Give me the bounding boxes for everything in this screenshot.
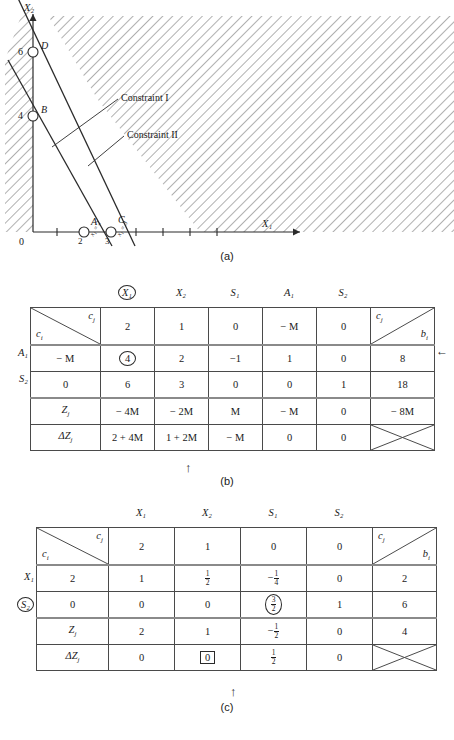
dzj-s1-c: 12 bbox=[241, 645, 307, 671]
pivot-col-arrow-c: ↑ bbox=[230, 685, 237, 698]
zj-x1-b: − 4M bbox=[101, 398, 155, 425]
bhdr-cj-sub-b: j bbox=[381, 316, 383, 324]
dzj-a1-b: 0 bbox=[263, 425, 317, 451]
y-axis-label: X₂ bbox=[24, 2, 34, 13]
cell-r2-s1-c: 32 bbox=[241, 592, 307, 619]
zj-bi-c: 4 bbox=[373, 618, 437, 645]
cell-r2-s2-b: 1 bbox=[317, 372, 371, 399]
cj-s1-b: 0 bbox=[209, 308, 263, 346]
table-row: 0 0 0 32 1 6 bbox=[37, 592, 437, 619]
zj-label-c: Zj bbox=[37, 618, 109, 645]
dzj-label-b: ΔZj bbox=[31, 425, 101, 451]
cell-r1-x1-b: 4 bbox=[101, 345, 155, 372]
vertex-label-B: B bbox=[41, 104, 47, 115]
dzj-x1-b: 2 + 4M bbox=[101, 425, 155, 451]
row-basis-x1-c: X₁ bbox=[0, 571, 34, 582]
col-header-x1-c: X₁ bbox=[108, 507, 174, 518]
col-header-a1: A₁ bbox=[262, 287, 316, 298]
dzj-x1-c: 0 bbox=[109, 645, 175, 671]
row-basis-s2: S₂ bbox=[0, 373, 28, 384]
caption-a: (a) bbox=[0, 250, 454, 262]
table-panel-c: X₁ X₂ S₁ S₂ X₁ S₂ θx₂ 4 ∞ cj ci 2 1 0 0 bbox=[0, 505, 454, 740]
cell-r1-s2-b: 0 bbox=[317, 345, 371, 372]
cj-s1-c: 0 bbox=[241, 528, 307, 566]
bi-row1-b: 8 bbox=[371, 345, 435, 372]
bhdr-bi-sub-b: i bbox=[426, 334, 428, 342]
cell-r1-a1-b: 1 bbox=[263, 345, 317, 372]
table-panel-b: X₁ X₂ S₁ A₁ S₂ A₁ S₂ θi 2 ← 3 cj ci 2 1 … bbox=[0, 285, 454, 490]
caption-c: (c) bbox=[0, 701, 454, 713]
dzj-x2-b: 1 + 2M bbox=[155, 425, 209, 451]
cell-r2-s1-b: 0 bbox=[209, 372, 263, 399]
bi-row1-c: 2 bbox=[373, 565, 437, 592]
x-tick-2: 2 bbox=[78, 236, 83, 246]
dzj-label-sub-b: j bbox=[71, 437, 73, 445]
col-header-x2-c: X₂ bbox=[174, 507, 240, 518]
cell-r1-s2-c: 0 bbox=[307, 565, 373, 592]
zj-a1-b: − M bbox=[263, 398, 317, 425]
zj-s1-c: −12 bbox=[241, 618, 307, 645]
simplex-table-c: cj ci 2 1 0 0 cj bi 2 1 12 −14 0 2 0 0 0… bbox=[36, 527, 437, 671]
ci-row2-c: 0 bbox=[37, 592, 109, 619]
dzj-bi-crossed-c bbox=[373, 645, 437, 671]
y-tick-4: 4 bbox=[18, 110, 23, 121]
table-b-dzj-row: ΔZj 2 + 4M 1 + 2M − M 0 0 bbox=[31, 425, 435, 451]
corner-cj-sub-c: j bbox=[101, 536, 103, 544]
row-basis-s2-c: S₂ bbox=[17, 597, 34, 612]
cell-r1-x1-c: 1 bbox=[109, 565, 175, 592]
zj-label-sub-b: j bbox=[67, 411, 69, 419]
x-tick-3: 3 bbox=[105, 236, 110, 246]
bhdr-bi-sub-c: i bbox=[428, 554, 430, 562]
col-header-x1: X₁ bbox=[118, 285, 136, 300]
table-c-dzj-row: ΔZj 0 0 12 0 bbox=[37, 645, 437, 671]
origin-label: 0 bbox=[19, 236, 24, 247]
cj-a1-b: − M bbox=[263, 308, 317, 346]
x-axis-label: X₁ bbox=[262, 218, 272, 229]
bi-row2-b: 18 bbox=[371, 372, 435, 399]
zj-s1-b: M bbox=[209, 398, 263, 425]
corner-ci-sub-b: i bbox=[41, 334, 43, 342]
graph-panel-a: X₂ X₁ 0 6 4 2 3 D B A C x₁ = 2 x₁ = 3 Co… bbox=[0, 0, 454, 272]
cell-r2-a1-b: 0 bbox=[263, 372, 317, 399]
boxed-zero-c: 0 bbox=[200, 651, 215, 664]
b-header-cell-b: cj bi bbox=[371, 308, 435, 346]
cj-x1-b: 2 bbox=[101, 308, 155, 346]
dzj-bi-crossed-b bbox=[371, 425, 435, 451]
pivot-col-arrow-b: ↑ bbox=[185, 461, 192, 474]
dzj-label-c: ΔZj bbox=[37, 645, 109, 671]
table-b-zj-row: Zj − 4M − 2M M − M 0 − 8M bbox=[31, 398, 435, 425]
b-header-cell-c: cj bi bbox=[373, 528, 437, 566]
zj-x1-c: 2 bbox=[109, 618, 175, 645]
zj-x2-b: − 2M bbox=[155, 398, 209, 425]
dzj-label-text-c: ΔZ bbox=[66, 650, 78, 661]
lp-feasible-region-plot bbox=[0, 0, 454, 248]
cell-r2-x1-b: 6 bbox=[101, 372, 155, 399]
dzj-s2-c: 0 bbox=[307, 645, 373, 671]
col-header-s2: S₂ bbox=[316, 287, 370, 298]
corner-cell-c: cj ci bbox=[37, 528, 109, 566]
corner-ci-sub-c: i bbox=[47, 554, 49, 562]
pivot-element-c: 32 bbox=[265, 594, 282, 615]
table-row: 0 6 3 0 0 1 18 bbox=[31, 372, 435, 399]
cj-s2-b: 0 bbox=[317, 308, 371, 346]
cell-r2-x1-c: 0 bbox=[109, 592, 175, 619]
zj-label-sub-c: j bbox=[74, 631, 76, 639]
bhdr-cj-sub-c: j bbox=[383, 536, 385, 544]
corner-cell-b: cj ci bbox=[31, 308, 101, 346]
vertex-D bbox=[28, 47, 38, 57]
bi-row2-c: 6 bbox=[373, 592, 437, 619]
cell-r2-s2-c: 1 bbox=[307, 592, 373, 619]
dzj-label-text-b: ΔZ bbox=[59, 430, 71, 441]
ci-row1-c: 2 bbox=[37, 565, 109, 592]
annotation-constraint-2: Constraint II bbox=[127, 129, 178, 140]
cell-r1-s1-c: −14 bbox=[241, 565, 307, 592]
col-header-x2: X₂ bbox=[154, 287, 208, 298]
dzj-s1-b: − M bbox=[209, 425, 263, 451]
row-basis-s2-c-wrap: S₂ bbox=[0, 597, 34, 612]
cell-r2-x2-c: 0 bbox=[175, 592, 241, 619]
zj-bi-b: − 8M bbox=[371, 398, 435, 425]
col-header-s1-c: S₁ bbox=[240, 507, 306, 518]
zj-s2-c: 0 bbox=[307, 618, 373, 645]
table-b-cj-row: cj ci 2 1 0 − M 0 cj bi bbox=[31, 308, 435, 346]
cell-r1-x2-b: 2 bbox=[155, 345, 209, 372]
